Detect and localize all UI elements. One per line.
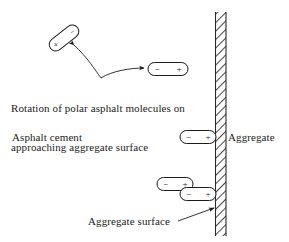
molecule-positive-sign: + [205,189,210,199]
molecule-negative-sign: − [163,179,168,189]
aggregate-surface-label: Aggregate surface [88,215,170,228]
molecule-negative-sign: − [186,189,191,199]
aggregate-surface-leader-line [178,208,214,221]
rotation-curved-double-arrow [74,45,144,78]
asphalt-cement-label: Asphalt cement [12,131,82,144]
molecule-positive-sign: + [176,64,181,74]
molecule-rotated: + − [47,22,82,53]
rotation-caption-line1: Rotation of polar asphalt molecules on [11,102,185,115]
aggregate-label: Aggregate [228,131,275,144]
molecule-at-surface-middle: − + [180,131,216,144]
rotation-caption: Rotation of polar asphalt molecules on a… [11,76,185,180]
molecule-positive-sign: + [205,132,210,142]
aggregate-hatched-wall [216,12,227,236]
molecule-at-surface-lower: − + [180,188,216,201]
asphalt-aggregate-diagram: + − − + − + − + − + [0,0,289,242]
molecule-negative-sign: − [186,132,191,142]
molecule-negative-sign: − [154,64,159,74]
molecule-aligned-upper: − + [148,63,188,76]
